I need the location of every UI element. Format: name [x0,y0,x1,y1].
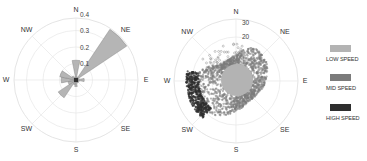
mid-speed-point [214,111,216,113]
legend-swatch-low [330,45,351,52]
mid-speed-point [210,58,212,60]
high-speed-point [196,93,198,95]
mid-speed-point [219,92,221,94]
mid-speed-point [260,76,262,78]
wind-sector-sw [58,80,76,98]
direction-label-w: W [3,76,10,83]
mid-speed-point [211,71,213,73]
mid-speed-point [236,60,238,62]
high-speed-point [189,92,191,94]
mid-speed-point [213,81,215,83]
mid-speed-point [256,79,258,81]
mid-speed-point [210,98,212,100]
mid-speed-point [200,76,202,78]
mid-speed-point [235,109,237,111]
high-speed-point [199,115,201,117]
mid-speed-point [227,56,229,58]
mid-speed-point [215,88,217,90]
high-speed-point [190,76,192,78]
mid-speed-point [221,107,223,109]
radial-tick-label: 0.1 [80,60,89,67]
high-speed-point [193,81,195,83]
mid-speed-point [203,90,205,92]
mid-speed-point [237,105,239,107]
mid-speed-point [265,66,267,68]
mid-speed-point [232,97,234,99]
mid-speed-point [237,47,239,49]
high-speed-point [201,106,203,108]
mid-speed-point [206,97,208,99]
high-speed-point [201,100,203,102]
mid-speed-point [229,106,231,108]
mid-speed-point [222,45,224,47]
mid-speed-point [251,62,253,64]
mid-speed-point [231,56,233,58]
mid-speed-point [211,82,213,84]
mid-speed-point [226,109,228,111]
mid-speed-point [205,70,207,72]
mid-speed-point [257,88,259,90]
mid-speed-point [228,61,230,63]
mid-speed-point [263,72,265,74]
high-speed-point [186,76,188,78]
legend-label-mid: MID SPEED [326,85,356,91]
mid-speed-point [249,58,251,60]
direction-label-s: S [74,146,79,153]
mid-speed-point [253,76,255,78]
mid-speed-point [223,105,225,107]
mid-speed-point [237,58,239,60]
mid-speed-point [213,105,215,107]
mid-speed-point [262,86,264,88]
mid-speed-point [213,61,215,63]
mid-speed-point [221,68,223,70]
mid-speed-point [260,59,262,61]
mid-speed-point [215,73,217,75]
mid-speed-point [260,87,262,89]
mid-speed-point [237,100,239,102]
mid-speed-point [220,89,222,91]
mid-speed-point [210,58,212,60]
mid-speed-point [254,88,256,90]
mid-speed-point [215,92,217,94]
direction-label-se: SE [121,125,131,132]
high-speed-point [202,113,204,115]
direction-label-sw: SW [21,125,33,132]
high-speed-point [192,86,194,88]
high-speed-point [190,83,192,85]
mid-speed-point [259,79,261,81]
mid-speed-point [246,53,248,55]
mid-speed-point [219,59,221,61]
legend-label-high: HIGH SPEED [326,115,360,121]
mid-speed-point [203,83,205,85]
mid-speed-point [212,88,214,90]
mid-speed-point [255,49,257,51]
mid-speed-point [228,59,230,61]
direction-label-e: E [144,76,149,83]
mid-speed-point [219,54,221,56]
mid-speed-point [253,57,255,59]
wind-sector-ne [76,29,127,80]
mid-speed-point [225,64,227,66]
mid-speed-point [252,67,254,69]
mid-speed-point [257,69,259,71]
mid-speed-point [232,105,234,107]
mid-speed-point [219,79,221,81]
mid-speed-point [216,110,218,112]
high-speed-point [193,91,195,93]
mid-speed-point [225,94,227,96]
mid-speed-point [255,62,257,64]
mid-speed-point [258,57,260,59]
high-speed-point [201,103,203,105]
mid-speed-point [257,77,259,79]
mid-speed-point [254,95,256,97]
high-speed-point [206,111,208,113]
mid-speed-point [222,90,224,92]
mid-speed-point [217,95,219,97]
mid-speed-point [207,72,209,74]
direction-label-se: SE [280,126,290,133]
mid-speed-point [241,62,243,64]
mid-speed-point [258,52,260,54]
mid-speed-point [250,47,252,49]
mid-speed-point [243,62,245,64]
mid-speed-point [211,102,213,104]
